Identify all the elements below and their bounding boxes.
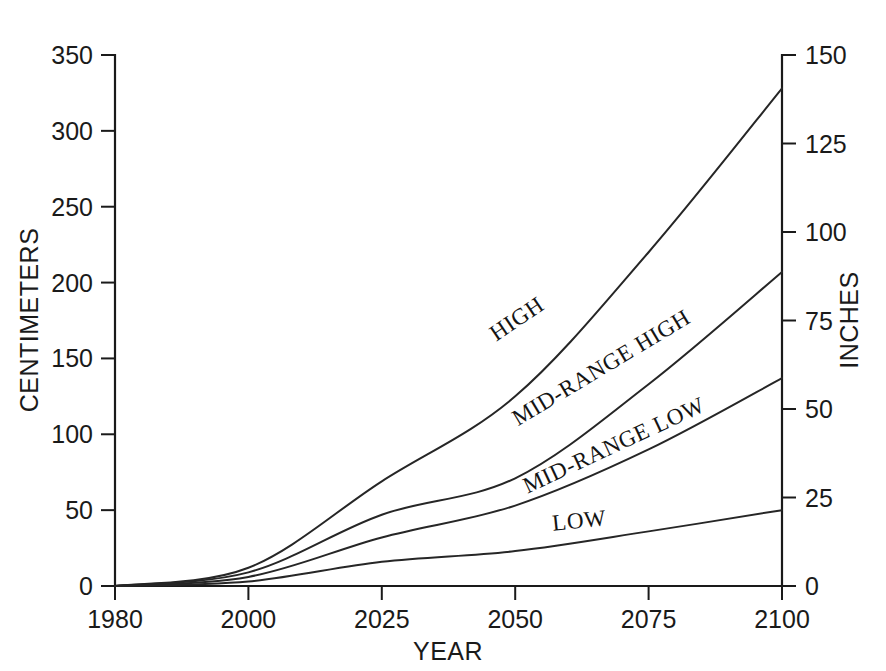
left-tick-label: 0	[79, 572, 93, 600]
x-tick-label: 1980	[87, 605, 143, 633]
x-axis-title: YEAR	[413, 637, 483, 665]
left-tick-label: 100	[51, 420, 93, 448]
x-tick-label: 2075	[621, 605, 677, 633]
right-tick-label: 75	[805, 307, 833, 335]
left-tick-label: 50	[65, 496, 93, 524]
left-tick-label: 300	[51, 117, 93, 145]
right-tick-label: 50	[805, 395, 833, 423]
x-tick-label: 2050	[487, 605, 543, 633]
x-tick-label: 2025	[354, 605, 410, 633]
right-tick-label: 125	[805, 130, 847, 158]
right-tick-label: 0	[805, 572, 819, 600]
left-tick-label: 200	[51, 269, 93, 297]
y2-axis-title: INCHES	[835, 271, 863, 368]
x-tick-label: 2100	[754, 605, 810, 633]
left-tick-label: 250	[51, 193, 93, 221]
y-axis-title: CENTIMETERS	[15, 228, 43, 413]
x-tick-label: 2000	[221, 605, 277, 633]
sea-level-rise-line-chart: 050100150200250300350 0255075100125150 1…	[0, 0, 886, 671]
left-tick-label: 150	[51, 344, 93, 372]
right-tick-label: 25	[805, 484, 833, 512]
right-tick-label: 100	[805, 218, 847, 246]
chart-page: 050100150200250300350 0255075100125150 1…	[0, 0, 886, 671]
chart-background	[0, 0, 886, 671]
right-tick-label: 150	[805, 41, 847, 69]
left-tick-label: 350	[51, 41, 93, 69]
